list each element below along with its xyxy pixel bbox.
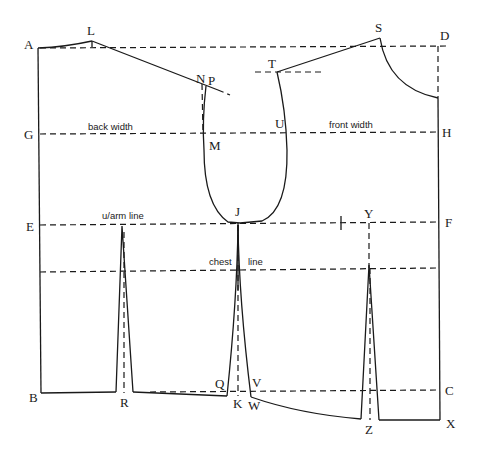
back-neckline xyxy=(38,41,92,48)
pattern-outline xyxy=(38,38,440,420)
line-A-D xyxy=(40,46,446,48)
back-hem-B-R xyxy=(41,392,116,393)
point-L: L xyxy=(87,23,95,38)
point-N: N xyxy=(196,71,206,86)
point-D: D xyxy=(440,28,449,43)
chest-label: chest xyxy=(209,256,232,267)
front-neckline xyxy=(380,38,438,98)
point-R: R xyxy=(120,395,129,410)
point-T: T xyxy=(268,56,276,71)
line-labels: back width front width u/arm line chest … xyxy=(88,119,373,267)
point-K: K xyxy=(233,396,243,411)
line-P-extension xyxy=(218,90,230,95)
back-side-seam xyxy=(227,225,238,396)
centre-front-line xyxy=(438,98,440,420)
centre-back-line xyxy=(38,48,41,393)
point-Z: Z xyxy=(365,422,373,437)
point-M: M xyxy=(209,138,221,153)
point-Y: Y xyxy=(364,206,374,221)
point-H: H xyxy=(442,125,451,140)
back-hem-R-Q xyxy=(133,392,227,396)
underarm-line-label: u/arm line xyxy=(102,210,144,221)
front-width-label: front width xyxy=(329,119,373,130)
front-hem-W-Z xyxy=(251,397,361,419)
point-J: J xyxy=(235,204,240,219)
front-armhole xyxy=(240,72,287,223)
point-F: F xyxy=(445,215,452,230)
construction-lines xyxy=(40,46,446,420)
point-W: W xyxy=(248,398,261,413)
point-P: P xyxy=(208,73,215,88)
point-B: B xyxy=(29,390,38,405)
point-E: E xyxy=(26,219,34,234)
point-V: V xyxy=(252,375,262,390)
line-G-H-back-front-width xyxy=(40,132,438,134)
chest-line-label: line xyxy=(248,256,263,267)
point-labels: A L N P T S D G M U H J E Y F B R Q K V … xyxy=(24,20,456,437)
point-X: X xyxy=(446,416,456,431)
point-C: C xyxy=(445,383,454,398)
front-shoulder-T-S xyxy=(277,38,380,72)
point-U: U xyxy=(275,116,285,131)
bodice-pattern-diagram: A L N P T S D G M U H J E Y F B R Q K V … xyxy=(0,0,478,457)
back-armhole xyxy=(203,86,240,223)
line-K-C-waist xyxy=(150,390,438,392)
front-side-seam xyxy=(238,225,251,397)
point-G: G xyxy=(24,127,33,142)
point-Q: Q xyxy=(215,376,225,391)
point-S: S xyxy=(375,20,382,35)
back-width-label: back width xyxy=(88,121,133,132)
point-A: A xyxy=(24,37,34,52)
